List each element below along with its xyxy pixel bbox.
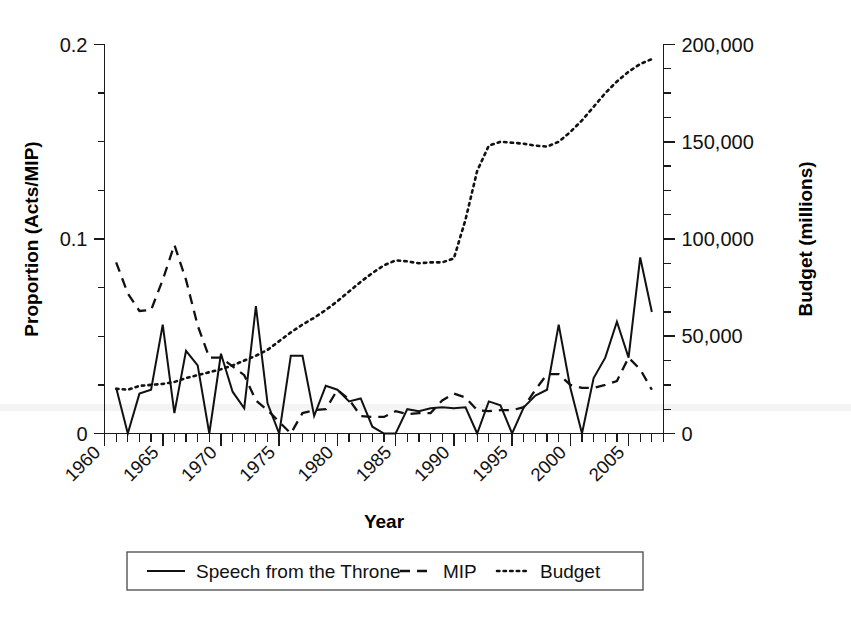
y-axis-title: Proportion (Acts/MIP) <box>21 141 42 336</box>
x-tick-label: 1990 <box>410 441 454 485</box>
x-tick-label: 1960 <box>60 441 104 485</box>
x-tick-label-group: 1985 <box>352 441 396 485</box>
left-tick-label: 0 <box>76 423 87 445</box>
chart-legend: Speech from the ThroneMIPBudget <box>127 552 643 590</box>
x-tick-label: 1995 <box>468 441 512 485</box>
series-line-budget <box>116 59 652 390</box>
x-tick-label-group: 1970 <box>177 441 221 485</box>
right-tick-label: 100,000 <box>682 228 754 250</box>
x-tick-label: 1965 <box>119 441 163 485</box>
x-tick-label: 1985 <box>352 441 396 485</box>
legend-label: MIP <box>443 561 477 582</box>
x-tick-label-group: 1980 <box>293 441 337 485</box>
legend-label: Speech from the Throne <box>196 561 401 582</box>
x-axis-ticks <box>105 434 664 446</box>
x-axis-title: Year <box>364 511 405 532</box>
x-tick-label-group: 2005 <box>584 441 628 485</box>
legend-label: Budget <box>540 561 601 582</box>
x-tick-label: 1970 <box>177 441 221 485</box>
left-axis-ticks <box>94 45 105 434</box>
y2-axis-title: Budget (millions) <box>795 161 816 316</box>
x-tick-label: 2000 <box>526 441 570 485</box>
chart-svg: 00.10.2 050,000100,000150,000200,000 196… <box>0 0 851 619</box>
chart-figure: 00.10.2 050,000100,000150,000200,000 196… <box>0 0 851 619</box>
right-axis-ticks <box>664 45 675 434</box>
x-tick-label: 1980 <box>293 441 337 485</box>
axes-frame <box>105 44 664 434</box>
x-tick-label-group: 1995 <box>468 441 512 485</box>
x-axis-tick-labels: 1960196519701975198019851990199520002005 <box>60 441 628 485</box>
x-tick-label-group: 1960 <box>60 441 104 485</box>
x-tick-label-group: 1990 <box>410 441 454 485</box>
left-tick-label: 0.2 <box>60 34 88 56</box>
left-tick-label: 0.1 <box>60 228 88 250</box>
right-tick-label: 0 <box>682 423 693 445</box>
data-series-group <box>116 59 652 433</box>
x-tick-label-group: 2000 <box>526 441 570 485</box>
right-tick-label: 200,000 <box>682 34 754 56</box>
right-tick-label: 50,000 <box>682 325 743 347</box>
x-tick-label-group: 1965 <box>119 441 163 485</box>
x-tick-label: 1975 <box>235 441 279 485</box>
x-tick-label: 2005 <box>584 441 628 485</box>
right-tick-label: 150,000 <box>682 131 754 153</box>
right-axis-tick-labels: 050,000100,000150,000200,000 <box>682 34 754 445</box>
x-tick-label-group: 1975 <box>235 441 279 485</box>
left-axis-tick-labels: 00.10.2 <box>60 34 88 445</box>
